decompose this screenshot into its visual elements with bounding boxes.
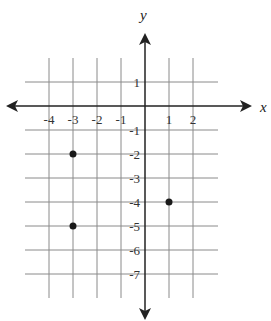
data-point — [70, 223, 77, 230]
x-tick-label: -3 — [68, 112, 79, 127]
y-tick-label: -7 — [129, 267, 140, 282]
y-tick-label: -5 — [129, 219, 140, 234]
x-tick-label: -4 — [44, 112, 55, 127]
y-tick-label: -4 — [129, 195, 140, 210]
data-point — [70, 151, 77, 158]
x-tick-label: 1 — [166, 112, 173, 127]
x-axis-label: x — [259, 99, 267, 115]
y-axis-label: y — [138, 7, 147, 23]
y-tick-label: -1 — [129, 123, 140, 138]
y-tick-label: 1 — [134, 75, 141, 90]
x-tick-label: -1 — [116, 112, 127, 127]
data-point — [166, 199, 173, 206]
y-tick-label: -3 — [129, 171, 140, 186]
y-tick-label: -6 — [129, 243, 140, 258]
x-tick-label: -2 — [92, 112, 103, 127]
x-tick-label: 2 — [190, 112, 197, 127]
grid-lines — [25, 58, 218, 298]
y-tick-label: -2 — [129, 147, 140, 162]
coordinate-plane: x y -4-3-2-1121-1-2-3-4-5-6-7 — [0, 0, 271, 321]
